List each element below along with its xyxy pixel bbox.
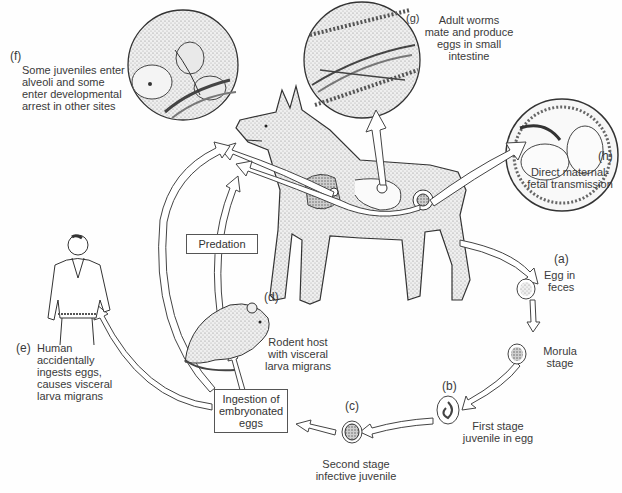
label-line: Adult worms	[414, 14, 524, 26]
label-line: ingests eggs,	[37, 366, 147, 378]
intestine-inset	[304, 2, 420, 118]
label-g: Adult worms mate and produce eggs in sma…	[414, 14, 524, 62]
label-a-tag: (a)	[554, 253, 569, 265]
label-line: infective juvenile	[300, 470, 412, 482]
label-line: Morula	[536, 345, 584, 357]
label-h: Direct maternal- fetal transmission	[520, 166, 620, 190]
label-a: Egg in feces	[544, 269, 575, 293]
label-line: with visceral	[256, 348, 340, 360]
label-line: First stage	[452, 420, 544, 432]
human-man	[48, 235, 110, 345]
label-line: eggs in small	[414, 38, 524, 50]
label-line: juvenile in egg	[452, 432, 544, 444]
label-h-tag: (h)	[598, 150, 613, 162]
label-line: mate and produce	[414, 26, 524, 38]
label-e-tag: (e)	[16, 342, 31, 354]
ingestion-box: Ingestion of embryonated eggs	[214, 389, 288, 433]
label-c: Second stage infective juvenile	[300, 458, 412, 482]
label-line: feces	[544, 281, 575, 293]
label-line: Rodent host	[256, 336, 340, 348]
label-line: larva migrans	[37, 390, 147, 402]
label-d: Rodent host with visceral larva migrans	[256, 336, 340, 372]
label-line: stage	[536, 357, 584, 369]
label-line: Human	[37, 342, 147, 354]
label-line: accidentally	[37, 354, 147, 366]
label-d-tag: (d)	[264, 291, 279, 303]
label-line: intestine	[414, 50, 524, 62]
label-line: Ingestion of	[219, 393, 283, 405]
label-e: Human accidentally ingests eggs, causes …	[37, 342, 147, 402]
label-b-tag: (b)	[442, 380, 457, 392]
label-f: (f) Some juveniles enter alveoli and som…	[10, 50, 150, 112]
label-line: alveoli and some	[22, 76, 150, 88]
label-line: Direct maternal-	[520, 166, 620, 178]
stage-tag: (f)	[10, 50, 150, 62]
egg-stages	[342, 279, 535, 443]
label-line: Egg in	[544, 269, 575, 281]
label-c-tag: (c)	[345, 400, 359, 412]
label-line: arrest in other sites	[22, 100, 150, 112]
label-morula: Morula stage	[536, 345, 584, 369]
label-line: eggs	[219, 417, 283, 429]
label-b: First stage juvenile in egg	[452, 420, 544, 444]
label-line: larva migrans	[256, 360, 340, 372]
label-line: causes visceral	[37, 378, 147, 390]
label-line: embryonated	[219, 405, 283, 417]
label-line: enter developmental	[22, 88, 150, 100]
predation-box: Predation	[186, 234, 258, 254]
label-line: Second stage	[300, 458, 412, 470]
label-line: Some juveniles enter	[22, 64, 150, 76]
life-cycle-diagram: (f) Some juveniles enter alveoli and som…	[0, 0, 622, 493]
dog-host	[236, 86, 470, 304]
label-line: fetal transmission	[520, 178, 620, 190]
